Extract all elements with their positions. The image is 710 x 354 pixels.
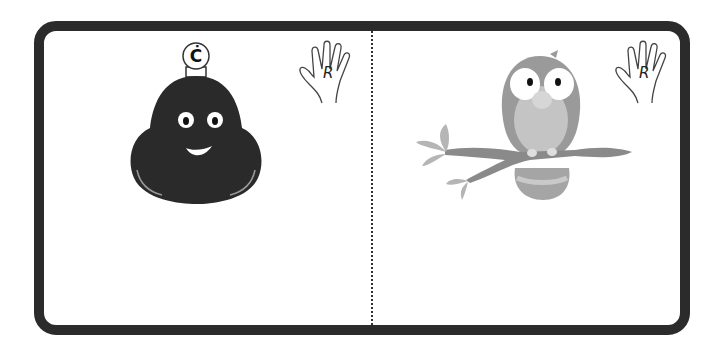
hand-letter: R xyxy=(639,64,649,82)
owl-on-branch-icon xyxy=(0,0,710,354)
